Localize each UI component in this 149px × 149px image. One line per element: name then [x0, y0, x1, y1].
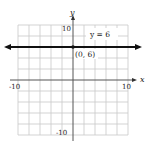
x-axis-arrow-icon	[132, 78, 137, 82]
x-max-label: 10	[122, 83, 131, 91]
x-axis-label: x	[140, 75, 145, 84]
y-axis-label: y	[69, 8, 75, 17]
y-max-label: 10	[62, 25, 71, 33]
graph-figure: y x 10 -10 -10 10 y = 6 (0, 6)	[0, 0, 149, 149]
point-label: (0, 6)	[75, 50, 95, 59]
coordinate-plane: y x 10 -10 -10 10 y = 6 (0, 6)	[0, 0, 149, 149]
point-0-6	[71, 45, 75, 49]
equation-label: y = 6	[89, 30, 110, 39]
left-arrow-icon	[4, 44, 11, 50]
y-min-label: -10	[56, 129, 67, 137]
x-min-label: -10	[9, 83, 20, 91]
right-arrow-icon	[135, 44, 142, 50]
